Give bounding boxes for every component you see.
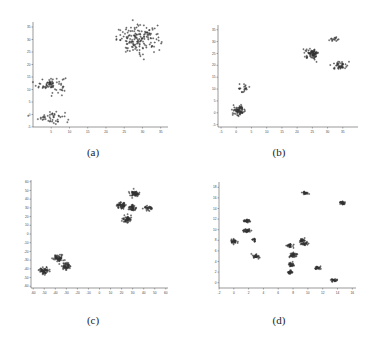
- svg-text:-40: -40: [53, 291, 58, 295]
- svg-text:16: 16: [213, 196, 217, 200]
- svg-text:-30: -30: [24, 258, 29, 262]
- svg-text:-5: -5: [28, 125, 31, 129]
- svg-text:30: 30: [212, 40, 216, 44]
- svg-text:0: 0: [233, 291, 235, 295]
- svg-text:20: 20: [212, 63, 216, 67]
- scatter-plot-b: -505101520253035-505101520253035: [186, 0, 372, 170]
- svg-text:15: 15: [280, 130, 284, 134]
- svg-text:5: 5: [214, 99, 216, 103]
- svg-text:0: 0: [27, 232, 29, 236]
- svg-text:0: 0: [99, 291, 101, 295]
- svg-text:0: 0: [214, 111, 216, 115]
- scatter-plot-a: -5051015202530355101520253035: [0, 0, 186, 170]
- svg-text:50: 50: [153, 291, 157, 295]
- svg-text:35: 35: [341, 130, 345, 134]
- svg-text:60: 60: [25, 180, 29, 184]
- svg-text:10: 10: [265, 130, 269, 134]
- caption-a: (a): [0, 146, 186, 158]
- svg-text:25: 25: [311, 130, 315, 134]
- svg-text:-30: -30: [64, 291, 69, 295]
- svg-text:60: 60: [164, 291, 168, 295]
- svg-text:10: 10: [213, 228, 217, 232]
- svg-text:20: 20: [295, 130, 299, 134]
- svg-text:-5: -5: [213, 123, 216, 127]
- svg-text:-60: -60: [24, 284, 29, 288]
- svg-text:10: 10: [306, 291, 310, 295]
- svg-text:30: 30: [25, 206, 29, 210]
- svg-text:10: 10: [212, 87, 216, 91]
- caption-c: (c): [0, 314, 186, 326]
- svg-text:-2: -2: [218, 291, 221, 295]
- svg-text:35: 35: [212, 28, 216, 32]
- panel-a: -5051015202530355101520253035 (a): [0, 0, 186, 170]
- svg-text:30: 30: [326, 130, 330, 134]
- svg-text:20: 20: [104, 130, 108, 134]
- svg-text:0: 0: [215, 281, 217, 285]
- svg-text:8: 8: [215, 238, 217, 242]
- svg-text:10: 10: [27, 88, 31, 92]
- svg-text:35: 35: [159, 130, 163, 134]
- svg-text:8: 8: [292, 291, 294, 295]
- svg-text:-40: -40: [24, 267, 29, 271]
- svg-text:25: 25: [27, 50, 31, 54]
- svg-text:-60: -60: [31, 291, 36, 295]
- svg-text:25: 25: [212, 52, 216, 56]
- svg-text:-50: -50: [24, 276, 29, 280]
- svg-text:2: 2: [248, 291, 250, 295]
- panel-b: -505101520253035-505101520253035 (b): [186, 0, 372, 170]
- svg-text:-5: -5: [220, 130, 223, 134]
- panel-d: 024681012141618-20246810121416 (d): [186, 170, 372, 340]
- caption-d: (d): [186, 314, 372, 326]
- svg-text:25: 25: [122, 130, 126, 134]
- svg-text:35: 35: [27, 25, 31, 29]
- svg-text:10: 10: [25, 223, 29, 227]
- svg-text:4: 4: [263, 291, 265, 295]
- svg-text:4: 4: [215, 260, 217, 264]
- svg-text:20: 20: [27, 63, 31, 67]
- svg-text:40: 40: [25, 197, 29, 201]
- svg-text:14: 14: [336, 291, 340, 295]
- svg-text:10: 10: [68, 130, 72, 134]
- svg-text:30: 30: [131, 291, 135, 295]
- svg-text:16: 16: [351, 291, 355, 295]
- svg-text:40: 40: [142, 291, 146, 295]
- panel-c: -60-50-40-30-20-100102030405060-60-50-40…: [0, 170, 186, 340]
- svg-text:-20: -20: [75, 291, 80, 295]
- svg-text:12: 12: [321, 291, 325, 295]
- svg-text:5: 5: [251, 130, 253, 134]
- svg-text:20: 20: [25, 215, 29, 219]
- svg-text:15: 15: [27, 75, 31, 79]
- svg-text:14: 14: [213, 207, 217, 211]
- svg-text:30: 30: [27, 38, 31, 42]
- svg-text:2: 2: [215, 270, 217, 274]
- svg-text:-10: -10: [24, 241, 29, 245]
- caption-b: (b): [186, 146, 372, 158]
- svg-text:18: 18: [213, 185, 217, 189]
- svg-text:0: 0: [235, 130, 237, 134]
- svg-text:6: 6: [277, 291, 279, 295]
- svg-text:6: 6: [215, 249, 217, 253]
- svg-text:-20: -20: [24, 250, 29, 254]
- svg-text:50: 50: [25, 189, 29, 193]
- svg-text:10: 10: [109, 291, 113, 295]
- svg-text:15: 15: [212, 75, 216, 79]
- svg-text:5: 5: [29, 100, 31, 104]
- svg-text:-50: -50: [42, 291, 47, 295]
- svg-text:20: 20: [120, 291, 124, 295]
- svg-text:-10: -10: [86, 291, 91, 295]
- svg-text:5: 5: [50, 130, 52, 134]
- svg-text:30: 30: [141, 130, 145, 134]
- svg-text:12: 12: [213, 217, 217, 221]
- svg-text:15: 15: [86, 130, 90, 134]
